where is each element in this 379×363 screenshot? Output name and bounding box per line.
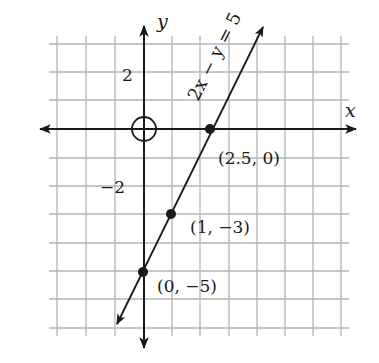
x-axis-label: x [345, 99, 356, 121]
point-1-neg3 [166, 209, 176, 219]
tick-label-2: 2 [122, 65, 133, 85]
point-2-5-0 [205, 124, 215, 134]
equation-label: 2x − y = 5 [183, 8, 245, 103]
point-label-1-neg3: (1, −3) [190, 217, 250, 237]
tick-label-neg2: −2 [100, 177, 125, 197]
point-label-0-neg5: (0, −5) [157, 276, 217, 296]
point-0-neg5 [138, 267, 148, 277]
coordinate-plane: y x 2 −2 2x − y = 5 (2.5, 0) (1, −3) (0,… [0, 0, 379, 363]
y-axis-label: y [156, 10, 168, 32]
point-label-2-5-0: (2.5, 0) [218, 148, 280, 168]
